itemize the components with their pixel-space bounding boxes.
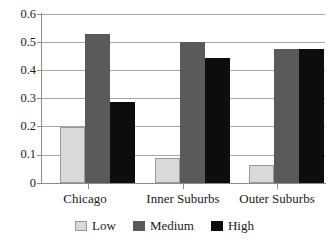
chart-legend: Low Medium High (0, 219, 329, 232)
bar-inner-suburbs-medium (180, 42, 205, 183)
legend-entry-medium: Medium (133, 219, 194, 232)
legend-swatch-medium-icon (133, 221, 145, 231)
bar-inner-suburbs-low (155, 158, 180, 183)
legend-label-low: Low (92, 219, 116, 232)
y-tick-label: 0.5 (2, 36, 36, 49)
y-tick-label: 0 (2, 177, 36, 190)
x-tick-mark (88, 184, 89, 189)
x-tick-mark (183, 184, 184, 189)
bar-outer-suburbs-medium (274, 49, 299, 183)
legend-label-high: High (228, 219, 254, 232)
y-tick-label: 0.2 (2, 120, 36, 133)
y-tick-label: 0.3 (2, 92, 36, 105)
bar-inner-suburbs-high (205, 58, 230, 183)
legend-swatch-high-icon (211, 221, 223, 231)
bar-chicago-medium (85, 34, 110, 183)
bar-chart: 0.6 0.5 0.4 0.3 0.2 0.1 0 (0, 0, 329, 245)
y-axis-labels: 0.6 0.5 0.4 0.3 0.2 0.1 0 (0, 0, 36, 245)
x-axis-label-outer-suburbs: Outer Suburbs (224, 192, 329, 206)
legend-swatch-low-icon (75, 221, 87, 231)
y-tick-label: 0.4 (2, 64, 36, 77)
legend-label-medium: Medium (150, 219, 194, 232)
legend-entry-low: Low (75, 219, 116, 232)
gridline (42, 14, 325, 15)
plot-area (42, 14, 325, 183)
bar-outer-suburbs-high (299, 49, 324, 183)
bar-chicago-low (60, 127, 85, 183)
x-tick-mark (277, 184, 278, 189)
y-tick-label: 0.1 (2, 148, 36, 161)
bar-outer-suburbs-low (249, 165, 274, 183)
x-axis-label-inner-suburbs: Inner Suburbs (130, 192, 236, 206)
legend-entry-high: High (211, 219, 254, 232)
x-axis-label-chicago: Chicago (35, 192, 135, 206)
bar-chicago-high (110, 102, 135, 183)
y-tick-label: 0.6 (2, 8, 36, 21)
